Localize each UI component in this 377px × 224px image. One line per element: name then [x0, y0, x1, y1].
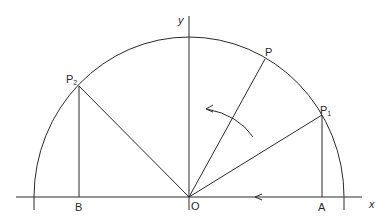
y-axis-label: y	[177, 14, 185, 26]
point-P1-label: P1	[320, 104, 331, 117]
origin-label: O	[191, 200, 200, 212]
point-P2-subscript: 2	[73, 79, 77, 86]
point-P2-letter: P	[66, 73, 73, 85]
radius-OP2	[79, 86, 189, 197]
diagram-canvas: y x O P P1 P2 A B	[0, 0, 377, 224]
point-B-label: B	[75, 201, 82, 213]
radius-OP1	[189, 115, 322, 197]
point-P1-subscript: 1	[327, 110, 331, 117]
point-P-label: P	[265, 46, 272, 58]
x-axis-label: x	[368, 198, 375, 210]
rotation-arrow-icon	[206, 105, 253, 137]
point-P1-letter: P	[320, 104, 327, 116]
point-P2-label: P2	[66, 73, 77, 86]
point-A-label: A	[318, 201, 326, 213]
radius-OP	[189, 59, 265, 197]
